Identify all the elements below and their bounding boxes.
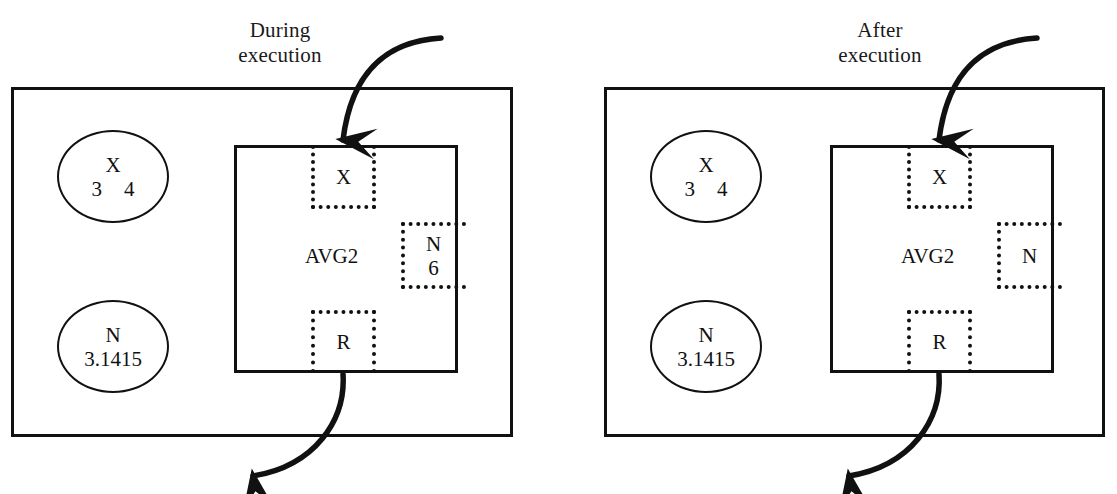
procedure-label-after: AVG2 [901,245,954,267]
value-cell-name: X [698,154,713,176]
slot-content: N [997,222,1062,289]
value-cell-x-after: X 3 4 [650,130,762,223]
parameter-slot-n-after: N [997,222,1062,289]
value-cell-x-during: X 3 4 [57,130,169,223]
value-cell-name: X [105,154,120,176]
value-cell-values: 3.1415 [84,348,142,370]
value-cell-value: 3 [92,178,103,200]
slot-name: X [336,165,351,189]
slot-content: X [907,145,972,209]
slot-name: N [426,232,441,256]
slot-content: R [907,310,972,373]
parameter-slot-n-during: N 6 [401,222,466,289]
panel-title-during: During execution [200,18,360,68]
value-cell-value: 4 [717,178,728,200]
panel-title-after: After execution [800,18,960,68]
value-cell-value: 3 [685,178,696,200]
procedure-label-during: AVG2 [305,245,358,267]
slot-content: N 6 [401,222,466,289]
value-cell-values: 3.1415 [677,348,735,370]
slot-name: X [932,165,947,189]
figure-canvas: During execution X 3 4 N 3.1415 AVG2 X [0,0,1117,494]
slot-name: R [932,330,946,354]
value-cell-name: N [105,324,120,346]
value-cell-n-during: N 3.1415 [57,300,169,393]
value-cell-value: 3.1415 [84,348,142,370]
parameter-slot-x-during: X [311,145,376,209]
value-cell-value: 4 [124,178,135,200]
value-cell-values: 3 4 [92,178,135,200]
value-cell-value: 3.1415 [677,348,735,370]
slot-name: R [336,330,350,354]
parameter-slot-x-after: X [907,145,972,209]
value-cell-name: N [698,324,713,346]
value-cell-n-after: N 3.1415 [650,300,762,393]
value-cell-values: 3 4 [685,178,728,200]
parameter-slot-r-during: R [311,310,376,373]
slot-value: 6 [428,256,439,280]
slot-content: R [311,310,376,373]
slot-content: X [311,145,376,209]
slot-name: N [1022,244,1037,268]
parameter-slot-r-after: R [907,310,972,373]
